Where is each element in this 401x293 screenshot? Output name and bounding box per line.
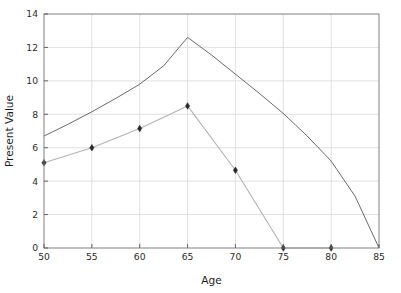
- x-tick-label: 65: [182, 251, 194, 262]
- x-tick-label: 70: [230, 251, 242, 262]
- chart-canvas: 5055606570758085 02468101214 Age Present…: [0, 0, 401, 293]
- y-tick-label: 12: [26, 42, 38, 53]
- y-tick-label: 8: [32, 109, 38, 120]
- x-tick-label: 80: [325, 251, 337, 262]
- x-tick-label: 55: [86, 251, 98, 262]
- y-tick-label: 6: [32, 142, 38, 153]
- chart-figure: 5055606570758085 02468101214 Age Present…: [0, 0, 401, 293]
- x-axis-title: Age: [201, 274, 222, 286]
- y-tick-label: 2: [32, 209, 38, 220]
- y-axis-title: Present Value: [3, 95, 15, 167]
- x-tick-label: 60: [134, 251, 146, 262]
- y-tick-label: 10: [26, 75, 38, 86]
- x-tick-label: 75: [277, 251, 289, 262]
- x-tick-label: 85: [373, 251, 385, 262]
- plot-area-background: [44, 14, 379, 248]
- y-tick-label: 4: [32, 176, 38, 187]
- y-tick-label: 0: [32, 242, 38, 253]
- x-tick-label: 50: [38, 251, 50, 262]
- y-tick-label: 14: [26, 8, 38, 19]
